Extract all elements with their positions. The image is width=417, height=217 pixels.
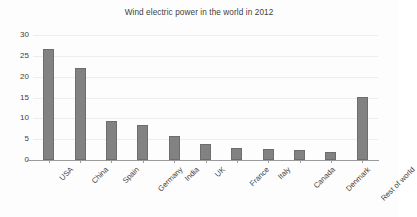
x-axis-tick-mark [49,160,50,163]
x-axis-tick-label-text: Rest of world [379,165,417,203]
x-axis-tick-label: China [90,165,110,185]
x-axis-tick-label: Spain [121,165,141,185]
bar-rest-of-world [357,97,368,160]
x-axis-tick-label-text: India [183,165,201,183]
y-axis-tick-label: 15 [3,94,29,102]
x-axis-tick-mark [143,160,144,163]
y-axis-tick-label: 10 [3,114,29,122]
y-axis-tick-label: 20 [3,73,29,81]
x-axis-tick-label-text: Denmark [344,165,372,193]
x-axis-tick-label-text: France [248,165,271,188]
bar-usa [43,49,54,160]
x-axis-tick-label: UK [213,165,227,179]
bar-canada [294,150,305,160]
x-axis-tick-label-text: USA [57,165,74,182]
bar-italy [263,149,274,160]
x-axis-tick-label: Italy [276,165,292,181]
x-axis-tick-label-text: Italy [276,165,292,181]
x-axis-tick-mark [206,160,207,163]
bar-denmark [325,152,336,160]
bar-spain [106,121,117,160]
x-axis-tick-label: India [183,165,201,183]
x-axis-tick-label-text: UK [213,165,227,179]
x-axis-tick-mark [331,160,332,163]
x-axis-tick-label: France [248,165,271,188]
bar-china [75,68,86,160]
y-axis: 051015202530 [0,0,29,217]
x-axis-tick-label: Germany [156,165,184,193]
x-axis-tick-label-text: Canada [311,165,336,190]
bar-france [231,148,242,161]
x-axis-tick-mark [237,160,238,163]
gridline [33,56,378,57]
y-axis-tick-label: 0 [3,156,29,164]
y-axis-tick-label: 25 [3,52,29,60]
x-axis-tick-mark [174,160,175,163]
x-axis-tick-label-text: Spain [121,165,141,185]
plot-area [33,35,378,160]
x-axis-tick-label: Denmark [344,165,372,193]
x-axis-tick-mark [111,160,112,163]
y-axis-tick-label: 30 [3,31,29,39]
gridline [33,35,378,36]
bar-india [169,136,180,160]
x-axis-tick-label: Canada [311,165,336,190]
x-axis-tick-mark [80,160,81,163]
x-axis-tick-label-text: China [90,165,110,185]
y-axis-tick-label: 5 [3,135,29,143]
x-axis-tick-mark [268,160,269,163]
chart-title: Wind electric power in the world in 2012 [0,8,398,17]
bar-germany [137,125,148,160]
x-axis-tick-label-text: Germany [156,165,184,193]
x-axis-tick-label: USA [57,165,74,182]
x-axis-tick-mark [300,160,301,163]
y-axis-tick-mark [29,160,33,161]
x-axis-tick-mark [362,160,363,163]
bar-uk [200,144,211,160]
x-axis-tick-label: Rest of world [379,165,417,203]
